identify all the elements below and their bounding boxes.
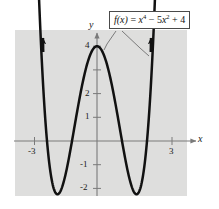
- x-axis-label: x: [198, 134, 202, 144]
- function-graph-figure: f(x) = x4 − 5x2 + 4 x y -3 3 4 2 1 -1 -2: [0, 0, 219, 209]
- x-tick-label-pos3: 3: [169, 147, 174, 156]
- y-tick-label-neg1: -1: [80, 160, 88, 169]
- plot-canvas: [0, 0, 219, 209]
- formula-operator-2: +: [170, 14, 181, 25]
- formula-callout-box: f(x) = x4 − 5x2 + 4: [109, 11, 190, 29]
- formula-equals: =: [128, 14, 139, 25]
- formula-term3: 4: [180, 14, 185, 25]
- y-tick-label-neg2: -2: [80, 183, 88, 192]
- formula-operator-1: −: [146, 14, 157, 25]
- y-axis-label: y: [89, 20, 93, 30]
- y-tick-label-2: 2: [85, 89, 90, 98]
- formula-lhs: f(x): [114, 14, 128, 25]
- y-tick-label-1: 1: [85, 112, 90, 121]
- y-tick-label-4: 4: [85, 41, 90, 50]
- x-tick-label-neg3: -3: [28, 147, 36, 156]
